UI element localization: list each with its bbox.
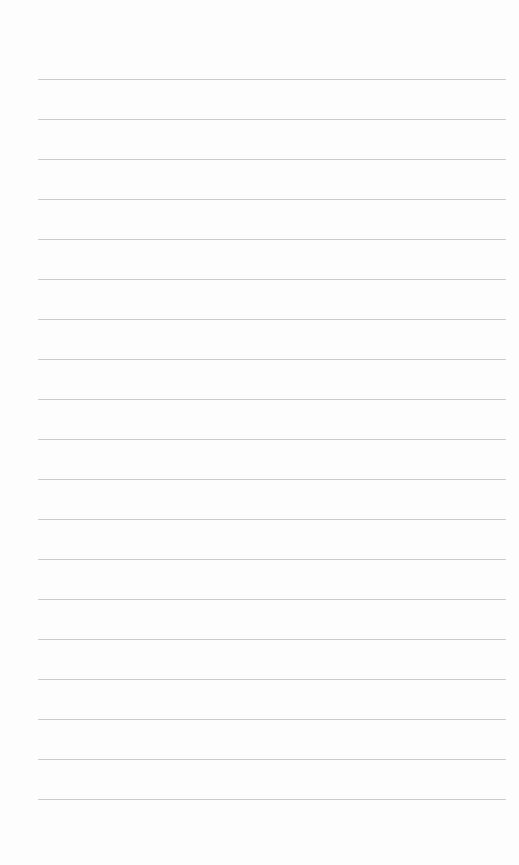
ruled-line [38, 759, 506, 760]
ruled-line [38, 239, 506, 240]
ruled-line [38, 799, 506, 800]
lined-paper-sheet [0, 0, 519, 865]
ruled-line [38, 559, 506, 560]
ruled-line [38, 199, 506, 200]
ruled-line [38, 79, 506, 80]
ruled-line [38, 159, 506, 160]
ruled-line [38, 359, 506, 360]
ruled-line [38, 639, 506, 640]
ruled-line [38, 399, 506, 400]
ruled-line [38, 279, 506, 280]
ruled-line [38, 319, 506, 320]
ruled-line [38, 479, 506, 480]
ruled-line [38, 439, 506, 440]
ruled-line [38, 719, 506, 720]
ruled-line [38, 519, 506, 520]
ruled-line [38, 679, 506, 680]
ruled-line [38, 119, 506, 120]
ruled-line [38, 599, 506, 600]
